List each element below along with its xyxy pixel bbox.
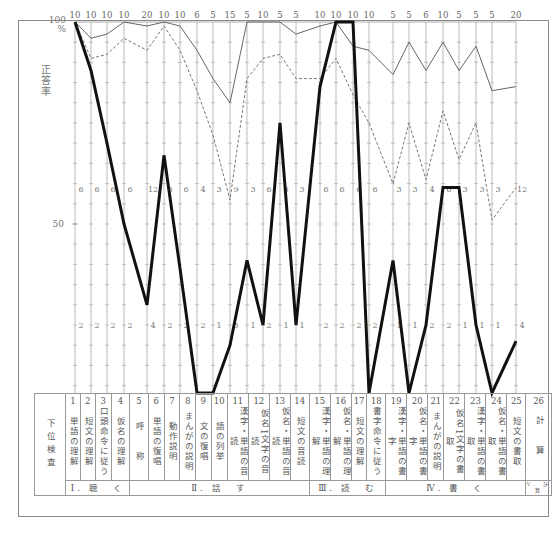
subtest-item-4: 4仮名の理解 — [111, 394, 130, 481]
max-score-label: 10 — [315, 10, 326, 20]
subtest-name: 書字命令に従う — [371, 406, 381, 478]
line-chart: 1062106210621062201241062106264253115935… — [0, 0, 552, 400]
threshold-20-label: 2 — [200, 321, 205, 330]
subtest-item-3: 3口頭命令に従う — [95, 394, 111, 481]
max-score-label: 5 — [489, 10, 494, 20]
threshold-20-label: 1 — [479, 321, 484, 330]
threshold-20-label: 2 — [372, 321, 377, 330]
subtest-item-26: 26計 算 — [526, 394, 552, 481]
max-score-label: 6 — [194, 10, 199, 20]
subtest-number: 26 — [526, 396, 551, 406]
max-score-label: 10 — [86, 10, 97, 20]
subtest-header: 下位検査 — [35, 394, 66, 496]
subtest-name: 仮名・単語の理解 — [331, 406, 351, 478]
max-score-label: 5 — [293, 10, 298, 20]
subtest-item-12: 12仮名1文字の音読 — [248, 394, 269, 481]
subtest-name: 仮名・単語の書取 — [486, 406, 506, 478]
subtest-name: 計 算 — [534, 406, 544, 466]
subtest-number: 23 — [465, 396, 485, 406]
threshold-20-label: 2 — [356, 321, 361, 330]
subtest-item-24: 24仮名・単語の書取 — [486, 394, 507, 481]
subtest-number: 11 — [228, 396, 248, 406]
subtest-item-17: 17短文の理解 — [351, 394, 367, 481]
subtest-item-21: 21まんがの説明 — [428, 394, 444, 481]
threshold-20-label: 2 — [110, 321, 115, 330]
max-score-label: 10 — [119, 10, 130, 20]
threshold-60-label: 6 — [94, 185, 99, 194]
subtest-name: 単語の復唱 — [151, 406, 161, 478]
max-score-label: 5 — [277, 10, 282, 20]
threshold-60-label: 3 — [216, 185, 221, 194]
max-score-label: 5 — [473, 10, 478, 20]
group-label: Ⅱ. 話 す — [130, 481, 309, 496]
subtest-number: 9 — [196, 396, 211, 406]
subtest-number: 13 — [270, 396, 290, 406]
threshold-20-label: 2 — [78, 321, 83, 330]
threshold-60-label: 6 — [183, 185, 188, 194]
subtest-name: 動作説明 — [167, 406, 177, 478]
subtest-number: 8 — [180, 396, 195, 406]
subtest-name: 短文の理解 — [354, 406, 364, 478]
threshold-20-label: 2 — [167, 321, 172, 330]
max-score-label: 6 — [423, 10, 428, 20]
threshold-20-label: 2 — [94, 321, 99, 330]
subtest-item-11: 11漢字・単語の音読 — [227, 394, 248, 481]
threshold-20-label: 2 — [446, 321, 451, 330]
max-score-label: 5 — [390, 10, 395, 20]
subtest-name: 単語の理解 — [68, 406, 78, 478]
threshold-60-label: 6 — [127, 185, 132, 194]
subtest-item-13: 13仮名・単語の音読 — [269, 394, 290, 481]
threshold-20-label: 1 — [283, 321, 288, 330]
threshold-20-label: 4 — [519, 321, 524, 330]
threshold-60-label: 6 — [372, 185, 377, 194]
subtest-number: 19 — [386, 396, 406, 406]
subtest-number: 1 — [66, 396, 79, 406]
subtest-item-15: 15漢字・単語の理解 — [309, 394, 330, 481]
subtest-number: 12 — [249, 396, 269, 406]
subtest-name: 口頭命令に従う — [98, 406, 108, 478]
subtest-item-25: 25短文の書取 — [507, 394, 526, 481]
subtest-name: 漢字・単語の音読 — [228, 406, 248, 478]
subtest-number: 10 — [212, 396, 227, 406]
threshold-20-label: 1 — [250, 321, 255, 330]
subtest-name: 仮名1文字の音読 — [249, 406, 269, 478]
max-score-label: 10 — [331, 10, 342, 20]
subtest-name: 仮名の理解 — [115, 406, 125, 478]
threshold-20-label: 2 — [339, 321, 344, 330]
threshold-20-label: 1 — [412, 321, 417, 330]
max-score-label: 15 — [225, 10, 236, 20]
max-score-label: 10 — [364, 10, 375, 20]
subtest-name: 漢字・単語の理解 — [310, 406, 330, 478]
threshold-60-label: 3 — [412, 185, 417, 194]
subtest-number: 17 — [352, 396, 367, 406]
max-score-label: 5 — [210, 10, 215, 20]
threshold-60-label: 4 — [429, 185, 434, 194]
subtest-item-5: 5呼 称 — [130, 394, 149, 481]
subtest-number: 16 — [331, 396, 351, 406]
subtest-item-1: 1単語の理解 — [66, 394, 80, 481]
threshold-20-label: 1 — [462, 321, 467, 330]
subtest-name: 漢字・単語の書取 — [465, 406, 485, 478]
subtest-number: 5 — [130, 396, 148, 406]
threshold-20-label: 1 — [216, 321, 221, 330]
subtest-name: 仮名1文字の書取 — [444, 406, 464, 478]
threshold-20-label: 1 — [299, 321, 304, 330]
subtest-item-14: 14短文の音読 — [290, 394, 309, 481]
threshold-60-label: 6 — [78, 185, 83, 194]
threshold-60-label: 3 — [299, 185, 304, 194]
max-score-label: 5 — [406, 10, 411, 20]
subtest-name: 短文の理解 — [83, 406, 93, 478]
subtest-number: 2 — [81, 396, 95, 406]
threshold-20-label: 2 — [429, 321, 434, 330]
threshold-60-label: 3 — [250, 185, 255, 194]
subtest-name: 語の列挙 — [214, 406, 224, 478]
subtest-table: 下位検査 1単語の理解2短文の理解3口頭命令に従う4仮名の理解5呼 称6単語の復… — [34, 393, 552, 496]
subtest-number: 25 — [507, 396, 525, 406]
threshold-60-label: 3 — [479, 185, 484, 194]
threshold-20-label: 2 — [127, 321, 132, 330]
subtest-name: 短文の書取 — [511, 406, 521, 478]
subtest-number: 15 — [310, 396, 330, 406]
subtest-number: 20 — [407, 396, 427, 406]
threshold-60-label: 3 — [495, 185, 500, 194]
threshold-60-label: 6 — [266, 185, 271, 194]
